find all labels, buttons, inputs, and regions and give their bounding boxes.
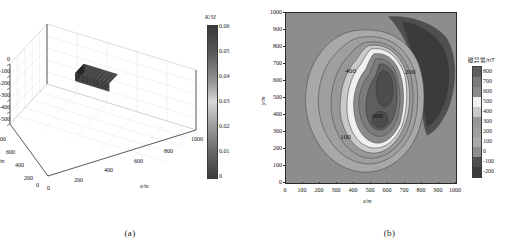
panel-b-y-tick-100: 100 xyxy=(264,162,282,168)
panel-a-x-tick-800: 800 xyxy=(164,148,173,154)
panel-b: 400 200 100 600 1000 900 800 700 600 500… xyxy=(260,0,519,242)
cb-swatch-800 xyxy=(473,67,481,77)
xtm xyxy=(319,182,320,184)
panel-b-contour-svg: 400 200 100 600 xyxy=(286,13,456,183)
panel-a-cb-tick-0.06: 0.06 xyxy=(219,23,230,29)
panel-a-z-tick-100: -100 xyxy=(0,68,10,74)
panel-a-z-tick-500: -500 xyxy=(0,116,10,122)
panel-b-x-tick-400: 400 xyxy=(345,187,361,193)
ytm xyxy=(283,97,285,98)
panel-b-colorbar: 磁异常/nT 800 700 600 500 400 300 200 100 xyxy=(467,56,519,186)
ytm xyxy=(283,80,285,81)
xtm xyxy=(404,182,405,184)
panel-b-cb-tick-700: 700 xyxy=(483,78,492,84)
panel-b-cb-tick-0: 0 xyxy=(483,148,486,154)
panel-a-z-tick-0: 0 xyxy=(0,56,10,62)
panel-a-y-tick-800: 800 xyxy=(0,136,6,142)
panel-b-axes: 400 200 100 600 1000 900 800 700 600 500… xyxy=(285,12,455,182)
panel-a-x-tick-1000: 1000 xyxy=(191,136,203,142)
cb-swatch-neg100 xyxy=(473,157,481,167)
panel-a-x-tick-0: 0 xyxy=(47,185,50,191)
figure-container: 0 -100 -200 -300 -400 -500 z/m 1000 800 … xyxy=(0,0,519,242)
panel-b-y-tick-0: 0 xyxy=(264,179,282,185)
panel-a-y-tick-600: 600 xyxy=(6,149,15,155)
panel-a-x-tick-200: 200 xyxy=(74,177,83,183)
panel-b-y-tick-300: 300 xyxy=(264,128,282,134)
panel-a-x-tick-400: 400 xyxy=(104,167,113,173)
ytm xyxy=(283,12,285,13)
panel-b-x-tick-500: 500 xyxy=(362,187,378,193)
cb-swatch-600 xyxy=(473,87,481,97)
panel-b-x-tick-0: 0 xyxy=(280,187,290,193)
panel-b-cb-tick-100: 100 xyxy=(483,138,492,144)
panel-b-y-tick-700: 700 xyxy=(264,60,282,66)
panel-a-z-tick-400: -400 xyxy=(0,104,10,110)
panel-b-cb-tick-500: 500 xyxy=(483,98,492,104)
xtm xyxy=(336,182,337,184)
panel-b-x-tick-600: 600 xyxy=(379,187,395,193)
panel-b-y-tick-900: 900 xyxy=(264,26,282,32)
panel-a-cb-tick-0.02: 0.02 xyxy=(219,123,230,129)
ytm xyxy=(283,131,285,132)
svg-text:600: 600 xyxy=(372,112,383,120)
contour-peak-upper xyxy=(376,71,393,107)
panel-b-y-tick-800: 800 xyxy=(264,43,282,49)
panel-b-cb-tick-600: 600 xyxy=(483,88,492,94)
panel-a-y-tick-200: 200 xyxy=(24,175,33,181)
panel-b-y-tick-600: 600 xyxy=(264,77,282,83)
panel-b-y-tick-400: 400 xyxy=(264,111,282,117)
panel-b-cb-tick-200: 200 xyxy=(483,128,492,134)
svg-text:100: 100 xyxy=(340,133,351,141)
panel-b-x-tick-1000: 1000 xyxy=(445,187,465,193)
cb-swatch-100 xyxy=(473,137,481,147)
panel-b-y-tick-200: 200 xyxy=(264,145,282,151)
panel-b-x-tick-300: 300 xyxy=(328,187,344,193)
xtm xyxy=(302,182,303,184)
panel-a-cb-tick-0: 0 xyxy=(219,173,222,179)
panel-b-y-tick-1000: 1000 xyxy=(264,9,282,15)
xtm xyxy=(455,182,456,184)
panel-a: 0 -100 -200 -300 -400 -500 z/m 1000 800 … xyxy=(0,0,260,242)
ytm xyxy=(283,114,285,115)
panel-a-x-tick-600: 600 xyxy=(134,158,143,164)
panel-a-z-tick-200: -200 xyxy=(0,80,10,86)
ytm xyxy=(283,63,285,64)
panel-a-cb-tick-0.03: 0.03 xyxy=(219,98,230,104)
svg-text:200: 200 xyxy=(405,68,416,76)
panel-b-colorbar-swatches xyxy=(472,66,482,178)
cb-swatch-neg200 xyxy=(473,167,481,177)
cb-swatch-700 xyxy=(473,77,481,87)
panel-b-y-axis-label: y/m xyxy=(260,96,266,105)
ytm xyxy=(283,148,285,149)
xtm xyxy=(285,182,286,184)
panel-b-cb-tick-neg100: -100 xyxy=(483,158,494,164)
cb-swatch-0 xyxy=(473,147,481,157)
panel-a-caption: (a) xyxy=(0,228,260,238)
panel-b-x-tick-100: 100 xyxy=(294,187,310,193)
panel-a-z-tick-300: -300 xyxy=(0,92,10,98)
panel-b-contour-plot: 400 200 100 600 xyxy=(285,12,457,184)
panel-b-caption: (b) xyxy=(260,228,519,238)
cb-swatch-200 xyxy=(473,127,481,137)
panel-a-y-tick-400: 400 xyxy=(15,162,24,168)
panel-a-y-tick-0: 0 xyxy=(36,182,39,188)
xtm xyxy=(438,182,439,184)
panel-a-colorbar: K/SI 0.06 0.05 0.04 0.03 0.02 0.01 0 xyxy=(203,14,259,184)
panel-b-colorbar-title: 磁异常/nT xyxy=(468,56,495,64)
xtm xyxy=(387,182,388,184)
panel-a-y-axis-label: y/m xyxy=(0,158,5,164)
ytm xyxy=(283,165,285,166)
panel-b-cb-tick-400: 400 xyxy=(483,108,492,114)
panel-a-cb-tick-0.05: 0.05 xyxy=(219,48,230,54)
xtm xyxy=(353,182,354,184)
xtm xyxy=(370,182,371,184)
panel-a-cb-tick-0.04: 0.04 xyxy=(219,73,230,79)
panel-a-3d-axes: 0 -100 -200 -300 -400 -500 z/m 1000 800 … xyxy=(0,6,215,196)
panel-b-x-axis-label: x/m xyxy=(363,198,372,204)
panel-b-cb-tick-neg200: -200 xyxy=(483,168,494,174)
ytm xyxy=(283,46,285,47)
panel-b-cb-tick-800: 800 xyxy=(483,68,492,74)
panel-a-colorbar-gradient xyxy=(207,25,218,179)
panel-b-x-tick-700: 700 xyxy=(396,187,412,193)
cb-swatch-300 xyxy=(473,117,481,127)
